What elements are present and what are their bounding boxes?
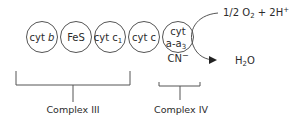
carrier-cyt-c1: cyt c1	[94, 22, 126, 53]
svg-text:cyt: cyt	[170, 26, 185, 37]
carrier-cyt-c: cyt c	[129, 22, 160, 53]
complex-iii-label: Complex III	[46, 104, 99, 115]
svg-text:cyt c: cyt c	[132, 32, 156, 43]
svg-text:FeS: FeS	[67, 32, 85, 43]
complex-iv-label: Complex IV	[154, 104, 208, 115]
carrier-cyt-a-a3: cyt a-a3	[163, 22, 194, 53]
carrier-cyt-b: cyt b	[27, 22, 58, 53]
complex-iii-bracket	[16, 71, 130, 102]
svg-text:cyt b: cyt b	[30, 32, 55, 43]
reaction-arc-arrow	[191, 13, 218, 60]
complex-iv-bracket	[159, 82, 200, 100]
oxygen-reactant-label: 1/2 O2 + 2H+	[223, 6, 289, 20]
electron-transport-diagram: cyt b FeS cyt c1 cyt c cyt a-a3 CN− 1/2 …	[0, 0, 290, 121]
water-product-label: H2O	[235, 55, 255, 68]
carrier-fes: FeS	[61, 22, 92, 53]
cyanide-inhibitor-label: CN−	[167, 51, 188, 64]
